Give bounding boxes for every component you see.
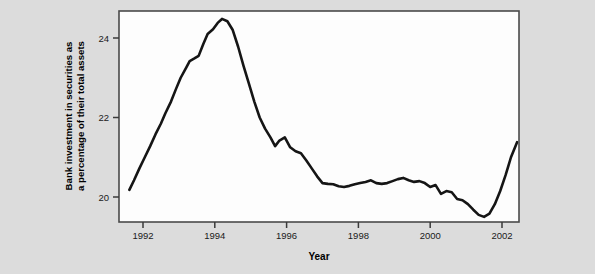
x-axis-ticks: 199219941996199820002002 (132, 222, 512, 241)
y-tick-label: 22 (98, 112, 109, 123)
plot-area-background (119, 11, 519, 222)
x-tick-label: 2000 (420, 230, 441, 241)
line-chart: 202224 199219941996199820002002 Year Ban… (0, 0, 595, 274)
chart-figure: 202224 199219941996199820002002 Year Ban… (0, 0, 595, 274)
y-tick-label: 24 (98, 33, 109, 44)
x-tick-label: 2002 (491, 230, 512, 241)
x-tick-label: 1994 (204, 230, 225, 241)
x-axis-title: Year (308, 251, 329, 262)
y-axis-ticks: 202224 (98, 33, 119, 203)
x-tick-label: 1992 (132, 230, 153, 241)
y-axis-title-line-2: a percentage of their total assets (75, 41, 86, 191)
y-tick-label: 20 (98, 192, 109, 203)
x-tick-label: 1996 (276, 230, 297, 241)
x-tick-label: 1998 (348, 230, 369, 241)
y-axis-title-line-1: Bank investment in securities as (63, 42, 74, 191)
